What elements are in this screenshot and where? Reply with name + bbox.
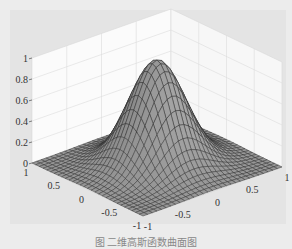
tick-mark — [29, 58, 32, 59]
tick-mark — [29, 79, 32, 80]
x-tick-label: 0 — [215, 197, 220, 208]
y-tick-label: 1 — [24, 167, 29, 178]
x-tick-label: -1 — [144, 221, 152, 232]
z-tick-label: 1 — [23, 53, 28, 64]
tick-mark — [29, 142, 32, 143]
tick-mark — [29, 100, 32, 101]
z-tick-label: 0.2 — [16, 137, 29, 148]
tick-mark — [29, 163, 32, 164]
y-tick-label: -0.5 — [101, 207, 117, 218]
x-tick-label: -0.5 — [175, 209, 191, 220]
y-tick-label: -1 — [133, 220, 141, 231]
z-tick-label: 0.4 — [16, 116, 29, 127]
y-tick-label: 0 — [79, 194, 84, 205]
tick-mark — [29, 121, 32, 122]
z-axis-ticks: 00.20.40.60.81 — [16, 53, 33, 169]
z-tick-label: 0.8 — [16, 74, 29, 85]
z-tick-label: 0.6 — [16, 95, 29, 106]
x-tick-label: 1 — [285, 172, 290, 183]
y-tick-label: 0.5 — [48, 180, 61, 191]
figure-caption: 图 二维高斯函数曲面图 — [0, 234, 292, 249]
x-tick-label: 0.5 — [246, 184, 259, 195]
